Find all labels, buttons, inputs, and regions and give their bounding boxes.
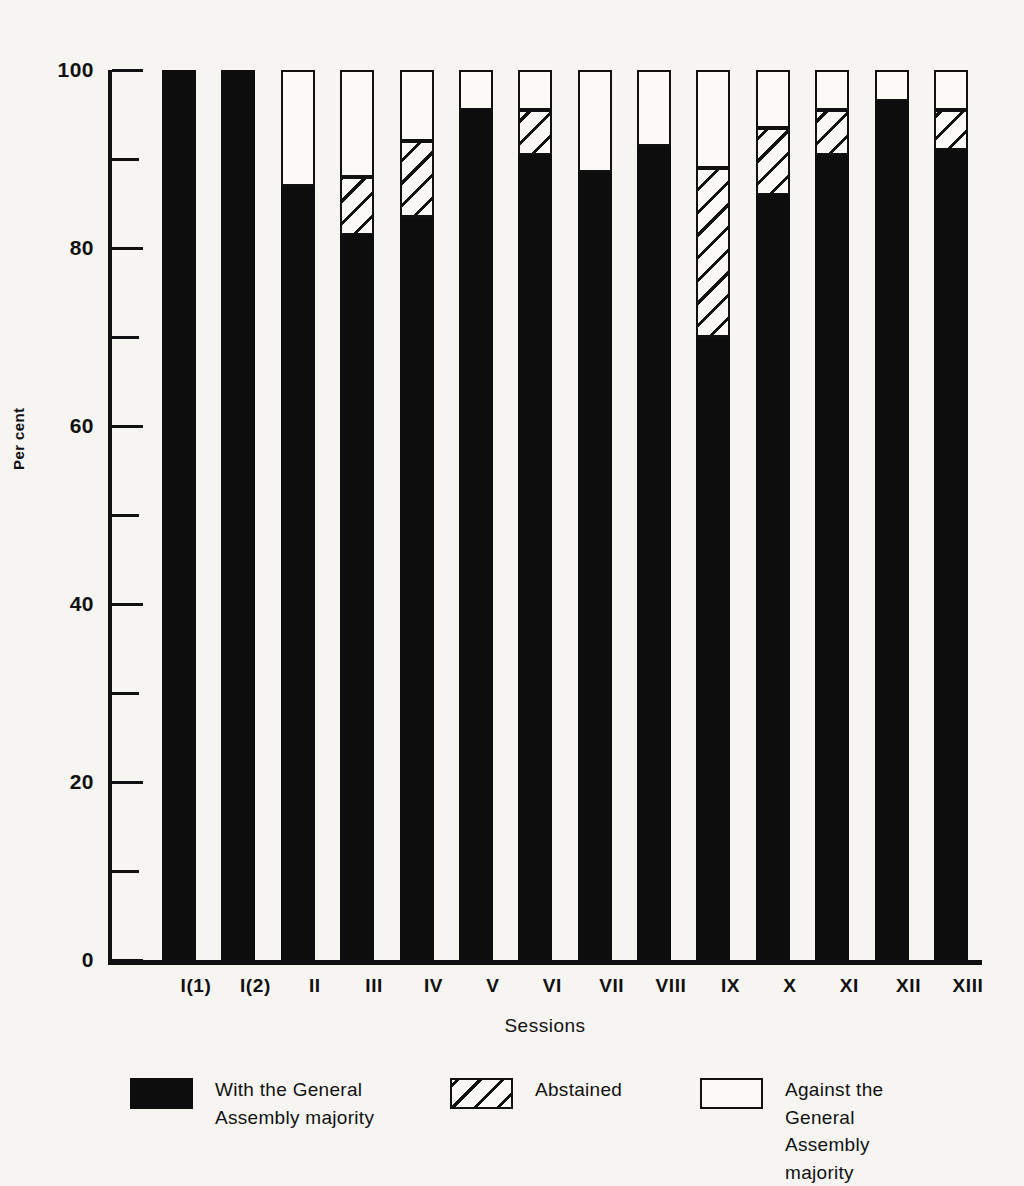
bar bbox=[400, 70, 434, 960]
bar bbox=[875, 70, 909, 960]
bar-segment-against bbox=[815, 70, 849, 110]
y-axis-tick-major bbox=[112, 69, 143, 72]
bar bbox=[934, 70, 968, 960]
y-axis-tick-label: 20 bbox=[42, 771, 94, 792]
bar bbox=[281, 70, 315, 960]
y-axis-tick-label: 40 bbox=[42, 593, 94, 614]
bar-segment-with bbox=[400, 217, 434, 960]
bar bbox=[518, 70, 552, 960]
bar-segment-against bbox=[696, 70, 730, 168]
legend-item-against: Against the General Assembly majority bbox=[700, 1078, 930, 1186]
y-axis-tick-minor bbox=[112, 514, 139, 517]
bar-segment-against bbox=[459, 70, 493, 110]
chart-legend: With the General Assembly majority Absta… bbox=[130, 1078, 930, 1148]
bar-segment-with bbox=[281, 186, 315, 960]
bar-segment-against bbox=[756, 70, 790, 128]
bar bbox=[756, 70, 790, 960]
bar-segment-against bbox=[340, 70, 374, 177]
y-axis-tick-major bbox=[112, 959, 143, 962]
legend-label-with: With the General Assembly majority bbox=[215, 1076, 374, 1131]
bar-segment-with bbox=[934, 150, 968, 960]
bar-segment-against bbox=[400, 70, 434, 141]
y-axis-title: Per cent bbox=[10, 408, 27, 470]
bar-segment-against bbox=[637, 70, 671, 146]
y-axis-tick-label: 100 bbox=[42, 59, 94, 80]
bar bbox=[815, 70, 849, 960]
bar-segment-with bbox=[696, 337, 730, 960]
hatched-swatch-icon bbox=[450, 1078, 513, 1109]
y-axis-tick-major bbox=[112, 247, 143, 250]
y-axis-tick-major bbox=[112, 603, 143, 606]
bar bbox=[340, 70, 374, 960]
y-axis-tick-label: 0 bbox=[42, 949, 94, 970]
legend-label-abstained: Abstained bbox=[535, 1076, 622, 1104]
x-axis-title: Sessions bbox=[108, 1015, 982, 1037]
bar-segment-against bbox=[578, 70, 612, 172]
solid-black-swatch-icon bbox=[130, 1078, 193, 1109]
bar-segment-abstained bbox=[815, 110, 849, 155]
bar-segment-with bbox=[815, 155, 849, 960]
y-axis-tick-minor bbox=[112, 158, 139, 161]
plot-area: 020406080100 I(1)I(2)IIIIIIVVVIVIIVIIIIX… bbox=[108, 70, 988, 960]
bar-segment-against bbox=[934, 70, 968, 110]
bar bbox=[578, 70, 612, 960]
bar-segment-with bbox=[340, 235, 374, 960]
x-axis-line bbox=[108, 960, 982, 965]
y-axis-tick-minor bbox=[112, 336, 139, 339]
bar-segment-against bbox=[875, 70, 909, 101]
y-axis-tick-major bbox=[112, 781, 143, 784]
y-axis-tick-label: 60 bbox=[42, 415, 94, 436]
legend-item-with: With the General Assembly majority bbox=[130, 1078, 374, 1131]
bar bbox=[162, 70, 196, 960]
bar-segment-against bbox=[281, 70, 315, 186]
bar-segment-abstained bbox=[756, 128, 790, 195]
bar-segment-abstained bbox=[696, 168, 730, 337]
bar bbox=[637, 70, 671, 960]
bar-segment-abstained bbox=[934, 110, 968, 150]
bar-segment-with bbox=[637, 146, 671, 960]
legend-label-against: Against the General Assembly majority bbox=[785, 1076, 930, 1186]
bar-segment-with bbox=[162, 70, 196, 960]
bar-segment-against bbox=[518, 70, 552, 110]
bar-segment-with bbox=[459, 110, 493, 960]
bar bbox=[221, 70, 255, 960]
bar-segment-with bbox=[756, 195, 790, 960]
bar-segment-with bbox=[221, 70, 255, 960]
y-axis-tick-major bbox=[112, 425, 143, 428]
bar-segment-with bbox=[578, 172, 612, 960]
y-axis-tick-minor bbox=[112, 870, 139, 873]
open-white-swatch-icon bbox=[700, 1078, 763, 1109]
y-axis-tick-label: 80 bbox=[42, 237, 94, 258]
bar-segment-with bbox=[518, 155, 552, 960]
bar-segment-abstained bbox=[518, 110, 552, 155]
bar-segment-with bbox=[875, 101, 909, 960]
bar bbox=[696, 70, 730, 960]
x-axis-tick-label: XIII bbox=[928, 975, 1008, 997]
bar-segment-abstained bbox=[400, 141, 434, 217]
bar-segment-abstained bbox=[340, 177, 374, 235]
y-axis-tick-minor bbox=[112, 692, 139, 695]
legend-item-abstained: Abstained bbox=[450, 1078, 622, 1109]
bar bbox=[459, 70, 493, 960]
